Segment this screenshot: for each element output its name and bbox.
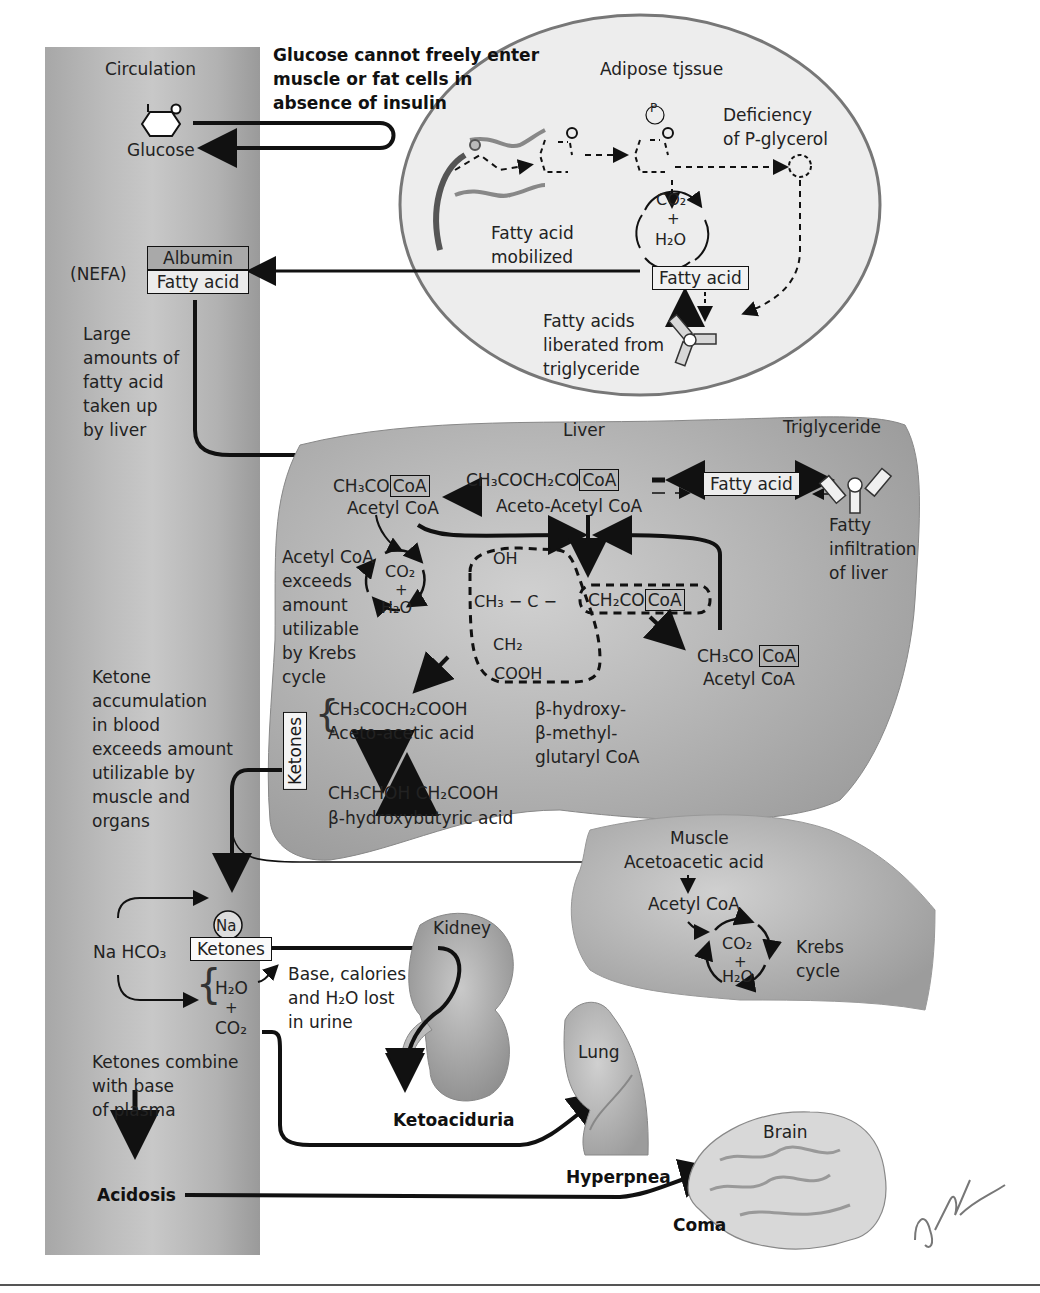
acetoacetyl-coa-name: Aceto-Acetyl CoA — [496, 494, 642, 518]
hmg-coa-name: β-hydroxy- β-methyl- glutaryl CoA — [535, 697, 639, 769]
bottom-divider — [0, 1284, 1040, 1286]
hmg-ch2co-coa: CH₂COCoA — [588, 588, 685, 612]
acetoacetic-formula: CH₃COCH₂COOH — [328, 697, 468, 721]
liver-title: Liver — [563, 418, 605, 442]
muscle-acetyl-coa: Acetyl CoA — [648, 892, 740, 916]
hydroxybutyric-formula: CH₃CHOH CH₂COOH — [328, 781, 499, 805]
triglyceride-label: Triglyceride — [783, 415, 881, 439]
acetyl-coa-2-name: Acetyl CoA — [703, 667, 795, 691]
liver-fatty-acid-box: Fatty acid — [703, 472, 800, 496]
na-label: Na — [216, 914, 236, 938]
brain-title: Brain — [763, 1120, 808, 1144]
urine-loss-label: Base, calories and H₂O lost in urine — [288, 962, 406, 1034]
acetyl-coa-exceeds-label: Acetyl CoA exceeds amount utilizable by … — [282, 545, 374, 689]
nefa-fatty-acid-box: Fatty acid — [147, 270, 249, 294]
adipose-title: Adipose tjssue — [600, 57, 723, 81]
phosphate-label: P — [650, 101, 657, 115]
muscle-title: Muscle — [670, 826, 729, 850]
fatty-infiltration-label: Fatty infiltration of liver — [829, 513, 917, 585]
glucose-label: Glucose — [127, 138, 195, 162]
lung-shape — [564, 1002, 648, 1155]
hmg-cooh: COOH — [494, 662, 542, 686]
acetoacetyl-coa-formula: CH₃COCH₂COCoA — [466, 468, 619, 492]
blood-co2: CO₂ — [215, 1016, 247, 1040]
p-glycerol-deficiency: Deficiency of P-glycerol — [723, 103, 828, 151]
acidosis-label: Acidosis — [97, 1183, 176, 1207]
fatty-acid-mobilized-label: Fatty acid mobilized — [491, 221, 574, 269]
insulin-note: Glucose cannot freely enter muscle or fa… — [273, 43, 539, 115]
blood-ketones-box: Ketones — [190, 937, 272, 961]
ketones-combine-label: Ketones combine with base of plasma — [92, 1050, 238, 1122]
lung-title: Lung — [578, 1040, 620, 1064]
hydroxybutyric-name: β-hydroxybutyric acid — [328, 806, 513, 830]
albumin-box: Albumin — [147, 246, 249, 270]
glucose-molecule-icon — [142, 104, 181, 136]
nahco3-label: Na HCO₃ — [93, 940, 166, 964]
hyperpnea-label: Hyperpnea — [566, 1165, 671, 1189]
acetoacetic-name: Aceto-acetic acid — [328, 721, 474, 745]
ketoaciduria-label: Ketoaciduria — [393, 1108, 515, 1132]
adipose-h2o: H₂O — [655, 228, 686, 252]
circulation-title: Circulation — [105, 57, 196, 81]
muscle-acetoacetic: Acetoacetic acid — [624, 850, 764, 874]
hmg-oh: OH — [493, 547, 518, 571]
hmg-ch3: CH₃ − C − — [474, 590, 557, 614]
acetyl-coa-formula: CH₃COCoA — [333, 474, 430, 498]
fatty-acids-liberated-label: Fatty acids liberated from triglyceride — [543, 309, 664, 381]
hmg-ch2: CH₂ — [493, 633, 523, 657]
nefa-label: (NEFA) — [70, 262, 127, 286]
coma-label: Coma — [673, 1213, 726, 1237]
liver-h2o: H₂O — [381, 596, 412, 620]
kidney-shape — [409, 913, 514, 1101]
muscle-h2o: H₂O — [722, 965, 753, 989]
ketones-vertical-label: Ketones — [283, 712, 307, 790]
acetyl-coa-name: Acetyl CoA — [347, 496, 439, 520]
kidney-title: Kidney — [433, 916, 491, 940]
acetyl-coa-2-formula: CH₃CO CoA — [697, 644, 799, 668]
ketone-accumulation-label: Ketone accumulation in blood exceeds amo… — [92, 665, 233, 833]
adipose-fatty-acid-box: Fatty acid — [652, 266, 749, 290]
netter-signature — [915, 1180, 1005, 1247]
large-amounts-label: Large amounts of fatty acid taken up by … — [83, 322, 179, 442]
krebs-cycle-label: Krebs cycle — [796, 935, 844, 983]
